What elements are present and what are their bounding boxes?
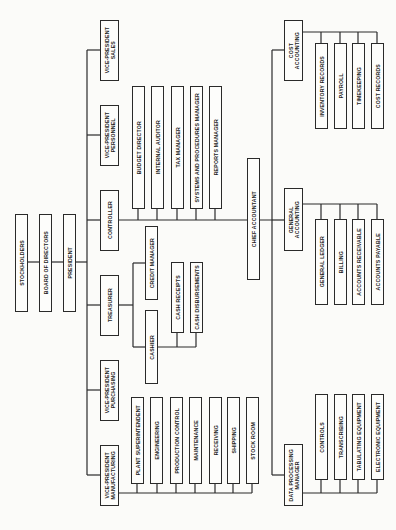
inventory-records-box: INVENTORY RECORDS: [315, 43, 328, 129]
stockholders-label: STOCKHOLDERS: [19, 240, 25, 286]
vp-manufacturing-box: VICE-PRESIDENT MANUFACTURING: [100, 445, 119, 506]
shipping-label: SHIPPING: [231, 427, 237, 453]
data-processing-label: DATA PROCESSING MANAGER: [288, 449, 300, 501]
general-ledger-label: GENERAL LEDGER: [319, 236, 325, 287]
tabulating-equipment-label: TABULATING EQUIPMENT: [356, 402, 362, 471]
vp-personnel-label: VICE-PRESIDENT PERSONNEL: [104, 112, 116, 158]
treasurer-box: TREASURER: [100, 275, 119, 336]
payroll-label: PAYROLL: [338, 73, 344, 98]
electronic-equipment-box: ELECTRONIC EQUIPMENT: [371, 394, 384, 480]
general-ledger-box: GENERAL LEDGER: [315, 219, 328, 305]
cash-receipts-box: CASH RECEIPTS: [171, 262, 184, 333]
cashier-label: CASHIER: [149, 335, 155, 360]
electronic-equipment-label: ELECTRONIC EQUIPMENT: [375, 402, 381, 472]
cash-disbursements-label: CASH DISBURSEMENTS: [194, 265, 200, 330]
stock-room-label: STOCK ROOM: [250, 422, 256, 460]
stockholders-box: STOCKHOLDERS: [15, 214, 28, 312]
transcribing-box: TRANSCRIBING: [334, 394, 347, 480]
controls-box: CONTROLS: [315, 394, 328, 480]
tabulating-equipment-box: TABULATING EQUIPMENT: [352, 394, 365, 480]
accounts-payable-box: ACCOUNTS PAYABLE: [371, 219, 384, 305]
treasurer-label: TREASURER: [107, 288, 113, 322]
maintenance-label: MAINTENANCE: [193, 420, 199, 461]
engineering-box: ENGINEERING: [150, 397, 163, 484]
payroll-box: PAYROLL: [334, 43, 347, 129]
tax-manager-label: TAX MANAGER: [175, 127, 181, 167]
tax-manager-box: TAX MANAGER: [171, 86, 184, 209]
stock-room-box: STOCK ROOM: [246, 397, 259, 484]
internal-auditor-box: INTERNAL AUDITOR: [151, 86, 164, 209]
data-processing-manager-box: DATA PROCESSING MANAGER: [284, 444, 303, 506]
cash-disbursements-box: CASH DISBURSEMENTS: [190, 262, 203, 333]
cost-accounting-label: COST ACCOUNTING: [288, 32, 300, 69]
internal-auditor-label: INTERNAL AUDITOR: [155, 120, 161, 174]
production-control-box: PRODUCTION CONTROL: [170, 397, 183, 484]
cashier-box: CASHIER: [145, 310, 158, 384]
plant-superintendent-label: PLANT SUPERINTENDENT: [135, 405, 141, 475]
chief-accountant-box: CHIEF ACCOUNTANT: [247, 158, 260, 280]
controller-label: CONTROLLER: [107, 201, 113, 239]
president-label: PRESIDENT: [67, 247, 73, 279]
inventory-records-label: INVENTORY RECORDS: [319, 56, 325, 117]
credit-manager-label: CREDIT MANAGER: [149, 238, 155, 288]
maintenance-box: MAINTENANCE: [189, 397, 202, 484]
vp-purchasing-box: VICE-PRESIDENT PURCHASING: [100, 360, 119, 421]
accounts-receivable-box: ACCOUNTS RECEIVABLE: [352, 219, 365, 305]
production-control-label: PRODUCTION CONTROL: [174, 408, 180, 474]
timekeeping-label: TIMEKEEPING: [356, 67, 362, 105]
vp-personnel-box: VICE-PRESIDENT PERSONNEL: [100, 105, 119, 166]
billing-box: BILLING: [334, 219, 347, 305]
cost-records-box: COST RECORDS: [371, 43, 384, 129]
vp-sales-box: VICE-PRESIDENT SALES: [100, 20, 119, 81]
systems-procedures-manager-box: SYSTEMS AND PROCEDURES MANAGER: [190, 86, 203, 209]
vp-sales-label: VICE-PRESIDENT SALES: [104, 27, 116, 73]
vp-manufacturing-label: VICE-PRESIDENT MANUFACTURING: [104, 451, 116, 499]
systems-procedures-label: SYSTEMS AND PROCEDURES MANAGER: [194, 93, 200, 203]
budget-director-label: BUDGET DIRECTOR: [136, 121, 142, 174]
billing-label: BILLING: [338, 251, 344, 273]
general-accounting-label: GENERAL ACCOUNTING: [288, 201, 300, 238]
cost-records-label: COST RECORDS: [375, 64, 381, 108]
cash-receipts-label: CASH RECEIPTS: [175, 275, 181, 320]
general-accounting-box: GENERAL ACCOUNTING: [284, 188, 303, 251]
chief-accountant-label: CHIEF ACCOUNTANT: [251, 191, 257, 247]
controls-label: CONTROLS: [319, 422, 325, 453]
timekeeping-box: TIMEKEEPING: [352, 43, 365, 129]
shipping-box: SHIPPING: [227, 397, 240, 484]
board-label: BOARD OF DIRECTORS: [43, 231, 49, 294]
plant-superintendent-box: PLANT SUPERINTENDENT: [131, 397, 144, 484]
board-of-directors-box: BOARD OF DIRECTORS: [39, 214, 52, 312]
receiving-label: RECEIVING: [213, 425, 219, 455]
credit-manager-box: CREDIT MANAGER: [145, 226, 158, 300]
reports-manager-box: REPORTS MANAGER: [209, 86, 222, 209]
cost-accounting-box: COST ACCOUNTING: [284, 20, 303, 81]
vp-purchasing-label: VICE-PRESIDENT PURCHASING: [104, 367, 116, 413]
accounts-payable-label: ACCOUNTS PAYABLE: [375, 233, 381, 290]
reports-manager-label: REPORTS MANAGER: [213, 119, 219, 175]
transcribing-label: TRANSCRIBING: [338, 416, 344, 458]
budget-director-box: BUDGET DIRECTOR: [132, 86, 145, 209]
engineering-label: ENGINEERING: [154, 421, 160, 460]
president-box: PRESIDENT: [63, 214, 76, 312]
receiving-box: RECEIVING: [209, 397, 222, 484]
accounts-receivable-label: ACCOUNTS RECEIVABLE: [356, 228, 362, 296]
controller-box: CONTROLLER: [100, 190, 119, 251]
